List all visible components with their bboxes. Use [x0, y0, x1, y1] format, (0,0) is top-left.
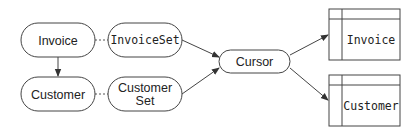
table-invoice: Invoice [329, 9, 400, 60]
node-cursor-label: Cursor [236, 55, 274, 69]
node-customer: Customer [21, 77, 95, 111]
node-cursor: Cursor [219, 50, 290, 73]
table-customer-label: Customer [343, 99, 398, 113]
arrow-customerset-to-cursor [182, 68, 219, 94]
node-customerset-label-line2: Set [136, 94, 155, 108]
arrow-cursor-to-invoice-table [290, 35, 328, 55]
arrow-cursor-to-customer-table [290, 68, 328, 100]
node-customerset: Customer Set [108, 77, 182, 111]
node-invoice: Invoice [21, 23, 95, 57]
node-customerset-label-line1: Customer [118, 81, 172, 95]
diagram-canvas: Invoice InvoiceSet Customer Customer Set… [0, 0, 415, 135]
table-customer: Customer [329, 75, 400, 126]
node-invoiceset-label: InvoiceSet [110, 33, 179, 47]
node-customer-label: Customer [31, 88, 85, 102]
node-invoiceset: InvoiceSet [108, 23, 182, 57]
arrow-invoiceset-to-cursor [182, 40, 219, 57]
node-invoice-label: Invoice [38, 34, 78, 48]
table-invoice-label: Invoice [347, 33, 396, 47]
